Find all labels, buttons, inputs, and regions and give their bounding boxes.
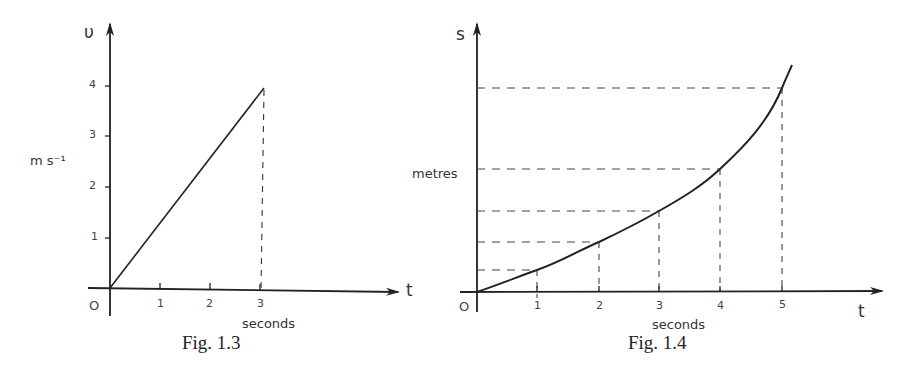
figure-1-4: s metres O 1 2 3 4 5 t seconds Fig. 1.4 [400, 0, 912, 386]
horizontal-projection-lines [477, 88, 782, 270]
dashed-drop-line [261, 90, 264, 290]
y-axis-unit: metres [412, 166, 458, 181]
origin-label: O [459, 299, 469, 314]
x-tick-label: 5 [779, 298, 786, 311]
y-tick-label: 2 [89, 179, 96, 192]
y-tick-label: 1 [91, 230, 98, 243]
y-axis-variable: υ [84, 22, 94, 42]
x-tick-label: 2 [206, 297, 213, 310]
velocity-time-plot [0, 0, 420, 386]
x-tick-label: 2 [596, 299, 603, 312]
x-axis-variable: t [858, 301, 865, 321]
vertical-projection-lines [537, 88, 782, 298]
x-tick-label: 4 [717, 299, 724, 312]
figure-1-3: υ m s⁻¹ 4 3 2 1 O 1 2 3 t seconds Fig. 1… [0, 0, 420, 386]
figure-caption: Fig. 1.3 [182, 332, 241, 354]
figure-caption: Fig. 1.4 [628, 332, 687, 354]
origin-label: O [89, 298, 99, 313]
displacement-curve [477, 65, 792, 292]
x-axis [88, 288, 398, 292]
y-tick-label: 4 [89, 78, 96, 91]
x-axis-unit: seconds [242, 316, 295, 331]
x-tick-label: 1 [534, 299, 541, 312]
y-tick-label: 3 [89, 128, 96, 141]
x-axis [460, 291, 882, 292]
y-axis-variable: s [456, 24, 465, 44]
y-axis-unit: m s⁻¹ [30, 153, 66, 168]
x-axis-unit: seconds [652, 317, 705, 332]
x-tick-label: 3 [656, 299, 663, 312]
x-tick-label: 1 [157, 297, 164, 310]
x-tick-label: 3 [257, 297, 264, 310]
velocity-line [110, 88, 264, 288]
